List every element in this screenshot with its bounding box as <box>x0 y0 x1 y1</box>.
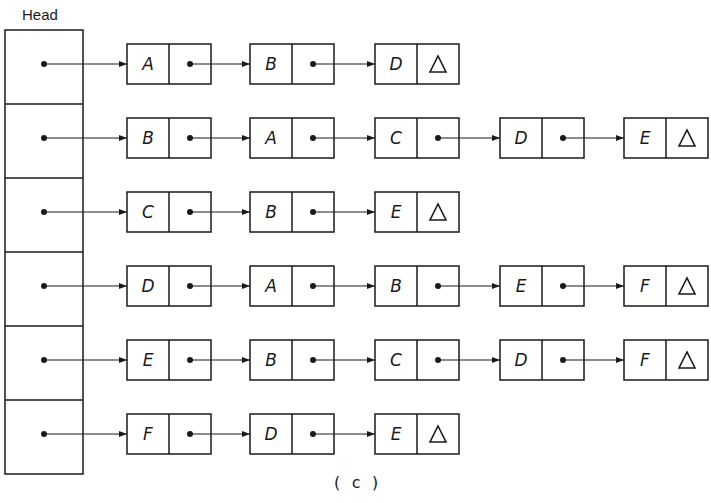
list-node-C: C <box>375 340 500 380</box>
node-label: C <box>390 350 402 370</box>
null-pointer-icon <box>679 130 695 146</box>
node-label: B <box>265 350 277 370</box>
adjacency-list-E: EBCDF <box>41 340 708 380</box>
list-node-E: E <box>375 414 459 454</box>
list-node-D: D <box>375 44 459 84</box>
list-node-E: E <box>624 118 708 158</box>
list-node-D: D <box>500 340 624 380</box>
node-label: D <box>514 350 527 370</box>
list-node-A: A <box>250 118 375 158</box>
node-label: E <box>391 424 402 444</box>
list-node-B: B <box>250 44 375 84</box>
adjacency-list-diagram: Head ABDBACDECBEDABEFEBCDFFDE ( c ) <box>0 0 711 503</box>
list-node-F: F <box>624 340 708 380</box>
list-node-B: B <box>127 118 250 158</box>
node-label: B <box>390 276 402 296</box>
adjacency-list-A: ABD <box>41 44 459 84</box>
figure-caption: ( c ) <box>332 473 380 492</box>
node-label: C <box>142 202 154 222</box>
list-node-E: E <box>375 192 459 232</box>
node-label: F <box>143 424 153 444</box>
node-label: B <box>265 54 277 74</box>
node-label: D <box>389 54 402 74</box>
list-node-E: E <box>127 340 250 380</box>
list-node-F: F <box>127 414 250 454</box>
node-label: D <box>141 276 154 296</box>
adjacency-lists: ABDBACDECBEDABEFEBCDFFDE <box>41 44 708 454</box>
node-label: E <box>640 128 651 148</box>
null-pointer-icon <box>679 352 695 368</box>
node-label: E <box>391 202 402 222</box>
node-label: C <box>390 128 402 148</box>
node-label: A <box>264 128 277 148</box>
node-label: A <box>264 276 277 296</box>
list-node-A: A <box>250 266 375 306</box>
list-node-D: D <box>127 266 250 306</box>
head-title: Head <box>22 6 58 23</box>
head-array <box>5 30 83 474</box>
adjacency-list-C: CBE <box>41 192 459 232</box>
node-label: B <box>142 128 154 148</box>
node-label: D <box>264 424 277 444</box>
null-pointer-icon <box>430 204 446 220</box>
null-pointer-icon <box>430 56 446 72</box>
list-node-C: C <box>127 192 250 232</box>
list-node-E: E <box>500 266 624 306</box>
list-node-B: B <box>250 340 375 380</box>
node-label: A <box>141 54 154 74</box>
list-node-B: B <box>250 192 375 232</box>
null-pointer-icon <box>430 426 446 442</box>
node-label: E <box>516 276 527 296</box>
node-label: F <box>640 350 650 370</box>
adjacency-list-F: FDE <box>41 414 459 454</box>
list-node-B: B <box>375 266 500 306</box>
node-label: F <box>640 276 650 296</box>
adjacency-list-B: BACDE <box>41 118 708 158</box>
node-label: B <box>265 202 277 222</box>
adjacency-list-D: DABEF <box>41 266 708 306</box>
node-label: E <box>143 350 154 370</box>
list-node-C: C <box>375 118 500 158</box>
list-node-D: D <box>250 414 375 454</box>
list-node-F: F <box>624 266 708 306</box>
list-node-D: D <box>500 118 624 158</box>
list-node-A: A <box>127 44 250 84</box>
null-pointer-icon <box>679 278 695 294</box>
node-label: D <box>514 128 527 148</box>
